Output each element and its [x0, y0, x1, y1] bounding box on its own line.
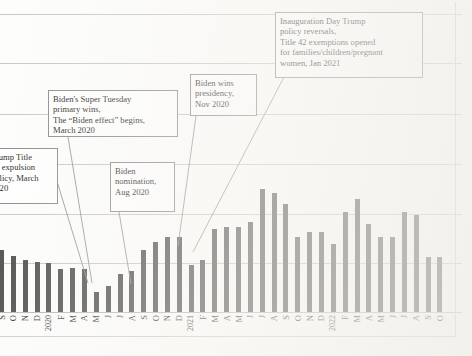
bar [366, 224, 371, 312]
x-axis-tick-label: O [294, 315, 303, 321]
x-axis-tick-label: J [246, 315, 255, 318]
x-axis-tick-label: M [235, 315, 244, 323]
x-axis-tick-label: F [341, 315, 350, 320]
x-axis-tick-label: J [116, 315, 125, 318]
bar [355, 199, 360, 312]
x-axis-tick-label: J [258, 315, 267, 318]
x-axis-tick-label: M [211, 315, 220, 323]
bar [70, 268, 75, 312]
x-axis-tick-label: 2021 [187, 315, 195, 331]
annotation-biden-super-tuesday: Biden's Super Tuesday primary wins, The … [48, 90, 178, 137]
x-axis-tick-label: N [163, 315, 172, 321]
x-axis-tick-label: 2020 [45, 315, 53, 331]
x-axis-tick-label: M [92, 315, 101, 323]
x-axis-tick-label: A [270, 315, 279, 321]
bar [0, 250, 4, 312]
bar [426, 257, 431, 312]
x-axis-tick-label: N [306, 315, 315, 321]
bar [260, 189, 265, 312]
bar [165, 237, 170, 312]
bar [402, 212, 407, 312]
plot-frame-right-edge [455, 2, 456, 336]
bar [224, 227, 229, 312]
bar [189, 265, 194, 312]
x-axis-tick-label: D [33, 315, 42, 321]
bar [58, 269, 63, 312]
bar [200, 260, 205, 312]
bar [11, 256, 16, 312]
x-axis-tick-label: J [389, 315, 398, 318]
bar [319, 232, 324, 312]
bar [331, 244, 336, 312]
x-axis-tick-label: M [69, 315, 78, 323]
x-axis-tick-label: J [400, 315, 409, 318]
x-axis-tick-label: 2022 [329, 315, 337, 331]
bar [378, 237, 383, 312]
x-axis-tick-label: D [317, 315, 326, 321]
x-axis-tick-label: O [152, 315, 161, 321]
bar [94, 292, 99, 312]
chart-page: SOND2020FMAMJJASOND2021FMAMJJASOND2022FM… [0, 0, 472, 356]
x-axis-tick-label: F [199, 315, 208, 320]
annotation-biden-nomination: Biden nomination, Aug 2020 [110, 162, 175, 212]
x-axis-tick-label: A [80, 315, 89, 321]
bar [343, 212, 348, 312]
bar [106, 286, 111, 312]
bar [437, 257, 442, 312]
x-axis-tick-label: O [436, 315, 445, 321]
x-axis-tick-label: A [412, 315, 421, 321]
bar [35, 262, 40, 312]
x-axis-tick-label: M [377, 315, 386, 323]
annotation-inauguration-day: Inauguration Day Trump policy reversals,… [275, 12, 423, 78]
x-axis-tick-label: A [128, 315, 137, 321]
x-axis-tick-label: J [104, 315, 113, 318]
plot-frame-bottom-edge [0, 336, 456, 337]
x-axis-tick-label: S [282, 315, 291, 320]
bar [129, 271, 134, 312]
bar [414, 215, 419, 312]
bar [283, 204, 288, 312]
bar [236, 227, 241, 312]
bar [141, 250, 146, 312]
x-axis-tick-label: S [424, 315, 433, 320]
x-axis-tick-label: A [223, 315, 232, 321]
x-axis-tick-label: S [140, 315, 149, 320]
bar [153, 242, 158, 312]
annotation-trump-title42: Trump Title 42 expulsion policy, March 2… [0, 148, 58, 204]
x-axis-tick-label: S [0, 315, 6, 320]
x-axis-tick-label: N [21, 315, 30, 321]
bar [390, 237, 395, 312]
x-axis-tick-label: F [57, 315, 66, 320]
x-axis-line [0, 312, 462, 313]
bar [46, 263, 51, 312]
bar [295, 237, 300, 312]
x-axis-tick-label: A [365, 315, 374, 321]
bar [212, 229, 217, 312]
gridline [0, 214, 462, 215]
bar [118, 274, 123, 312]
bar [82, 269, 87, 312]
gridline [0, 164, 462, 165]
x-axis-tick-label: M [353, 315, 362, 323]
x-axis-tick-label: D [175, 315, 184, 321]
bar [272, 193, 277, 312]
bar [248, 222, 253, 312]
bar [23, 260, 28, 312]
bar [307, 232, 312, 312]
annotation-biden-wins-presidency: Biden wins presidency, Nov 2020 [190, 74, 257, 116]
x-axis-tick-label: O [9, 315, 18, 321]
bar [177, 237, 182, 312]
